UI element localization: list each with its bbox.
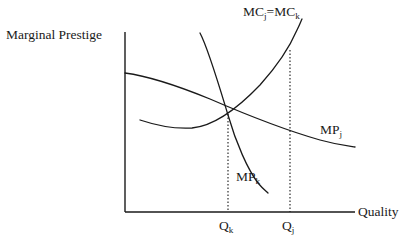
x-axis-label: Quality — [358, 205, 399, 219]
curve-label-marginal-prestige-k: MPk — [236, 170, 260, 184]
y-axis-label: Marginal Prestige — [6, 28, 102, 42]
x-tick-label-qj: Qj — [282, 219, 294, 233]
curve-label-marginal-prestige-j: MPj — [320, 123, 342, 137]
x-axis-label-text: Quality — [358, 204, 399, 219]
curve-label-marginal-cost: MCj=MCk — [243, 5, 300, 19]
diagram-canvas: Marginal Prestige Quality MCj=MCk MPj MP… — [0, 0, 410, 244]
mpk-label-text: MP — [236, 169, 256, 184]
mc-subscript-k: k — [295, 11, 300, 21]
curve-marginal-prestige-k — [200, 33, 268, 193]
qj-subscript: j — [292, 225, 295, 235]
qj-label-text: Q — [282, 218, 292, 233]
mpj-subscript: j — [340, 129, 343, 139]
mpk-subscript: k — [256, 176, 261, 186]
y-axis-label-text: Marginal Prestige — [6, 27, 102, 42]
x-tick-label-qk: Qk — [219, 219, 233, 233]
qk-label-text: Q — [219, 218, 229, 233]
mc-label-text: MC — [243, 4, 264, 19]
mc-label-text-2: MC — [274, 4, 295, 19]
curve-marginal-cost — [140, 19, 302, 128]
mc-subscript-j: j — [264, 11, 267, 21]
mpj-label-text: MP — [320, 122, 340, 137]
qk-subscript: k — [229, 225, 234, 235]
